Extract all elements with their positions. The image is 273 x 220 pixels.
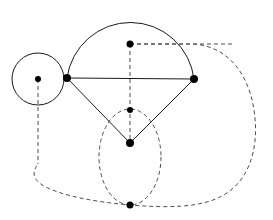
geometry-diagram-canvas (0, 0, 273, 220)
geometry-diagram-svg (0, 0, 273, 220)
triangle-left-leg-segment (67, 78, 130, 143)
right-junction-vertex (190, 75, 198, 83)
solid-construction-layer (12, 22, 194, 143)
triangle-lower-apex-vertex (126, 139, 134, 147)
vertex-dot-layer (35, 41, 198, 209)
left-junction-vertex (63, 74, 71, 82)
major-arc-semicircle (67, 22, 194, 79)
outer-dashed-contour (34, 44, 255, 207)
dashed-construction-layer (34, 44, 255, 207)
upper-center-vertex (127, 41, 134, 48)
small-circle-center-vertex (35, 76, 41, 82)
horizontal-chord-segment (67, 78, 194, 79)
mid-center-vertex (127, 107, 133, 113)
bottom-center-vertex (127, 202, 134, 209)
